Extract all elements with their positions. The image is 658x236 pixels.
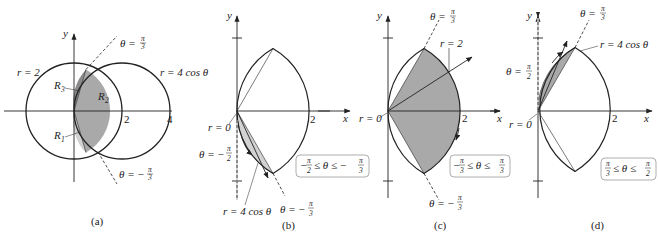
svg-text:3: 3 [605, 169, 610, 178]
svg-text:3: 3 [499, 166, 504, 175]
svg-text:2: 2 [105, 96, 109, 105]
y-axis-label: y [376, 9, 382, 21]
svg-text:π: π [606, 159, 610, 168]
svg-text:3: 3 [140, 42, 145, 51]
x-axis-label: x [643, 112, 649, 124]
caption-a: (a) [91, 215, 104, 228]
polar-area-figure: y r = 2 r = 4 cos θ θ = π 3 θ = − π 3 R … [0, 0, 658, 236]
svg-text:π: π [527, 62, 531, 71]
svg-text:π: π [451, 7, 455, 16]
svg-text:θ = −: θ = − [429, 197, 455, 209]
ray-pi-3 [424, 20, 439, 49]
tick-2: 2 [310, 113, 316, 125]
lens-outline [540, 48, 610, 172]
svg-text:≤ θ ≤: ≤ θ ≤ [467, 159, 490, 171]
svg-text:2: 2 [527, 72, 531, 81]
label-r0: r = 0 [509, 118, 532, 130]
x-axis-label: x [496, 112, 502, 124]
svg-text:3: 3 [308, 209, 313, 218]
svg-text:2: 2 [307, 166, 311, 175]
y-axis-label: y [226, 9, 232, 21]
label-theta-neg-pi-2: θ = − π 2 [199, 144, 232, 163]
svg-text:π: π [307, 156, 311, 165]
svg-text:θ =: θ = [580, 7, 596, 19]
svg-text:≤ θ ≤ −: ≤ θ ≤ − [314, 159, 347, 171]
svg-text:θ =: θ = [506, 65, 522, 77]
sweep-arrow [538, 41, 567, 111]
tick-2: 2 [612, 112, 618, 124]
panel-d: y x 2 θ = π3 θ = π2 r = 4 cos θ r = 0 π3… [490, 4, 656, 232]
svg-text:3: 3 [60, 85, 65, 94]
ray-neg-pi-3 [273, 173, 285, 196]
label-theta-neg-pi-3: θ = − π 3 [280, 199, 314, 218]
svg-text:θ =: θ = [430, 10, 446, 22]
label-r2: r = 2 [17, 66, 40, 78]
svg-text:π: π [359, 156, 363, 165]
svg-text:R: R [53, 129, 61, 141]
svg-text:π: π [227, 144, 231, 153]
svg-text:R: R [97, 90, 105, 102]
label-theta-pi-3: θ = π 3 [120, 34, 146, 51]
svg-text:θ = −: θ = − [119, 168, 145, 180]
svg-text:3: 3 [459, 166, 464, 175]
label-r0: r = 0 [359, 112, 382, 124]
svg-text:θ = −: θ = − [199, 148, 225, 160]
label-theta-pi-3: θ = π3 [580, 4, 606, 22]
svg-text:θ = −: θ = − [280, 203, 306, 215]
svg-text:π: π [460, 156, 464, 165]
svg-text:1: 1 [61, 135, 65, 144]
tick-4: 4 [167, 113, 173, 125]
x-axis-label-b: x [342, 112, 348, 124]
svg-text:π: π [309, 199, 313, 208]
svg-text:π: π [646, 159, 650, 168]
svg-text:2: 2 [227, 154, 231, 163]
caption-b: (b) [282, 219, 295, 232]
range-box-d: π3 ≤ θ ≤ π2 [601, 158, 656, 180]
label-r0: r = 0 [208, 121, 231, 133]
svg-text:3: 3 [457, 203, 462, 212]
svg-text:R: R [53, 79, 61, 91]
y-axis-label: y [526, 9, 532, 21]
label-theta-neg-pi-3: θ = − π3 [429, 193, 463, 212]
caption-c: (c) [434, 219, 447, 232]
range-box-b: − π2 ≤ θ ≤ − π3 [296, 155, 369, 177]
svg-text:π: π [500, 156, 504, 165]
ray-neg-pi-3 [424, 173, 439, 200]
svg-text:3: 3 [450, 16, 455, 25]
svg-text:3: 3 [358, 166, 363, 175]
panel-c: y x x 2 θ = π3 r = 2 r = 0 θ = − π3 − π3… [318, 7, 510, 232]
tick-2: 2 [124, 113, 130, 125]
label-theta-pi-2: θ = π2 [506, 62, 532, 81]
sweep-arrow [237, 111, 268, 178]
sliver-shading [237, 111, 273, 173]
svg-text:≤ θ ≤: ≤ θ ≤ [613, 162, 636, 174]
label-r2: r = 2 [440, 37, 463, 49]
svg-text:3: 3 [600, 13, 605, 22]
label-4cos: r = 4 cos θ [223, 205, 272, 217]
panel-a: y r = 2 r = 4 cos θ θ = π 3 θ = − π 3 R … [4, 27, 209, 228]
svg-text:π: π [601, 4, 605, 13]
svg-text:θ =: θ = [120, 37, 136, 49]
svg-text:2: 2 [646, 169, 650, 178]
caption-d: (d) [591, 219, 604, 232]
label-4cos: r = 4 cos θ [600, 38, 649, 50]
tick-2: 2 [462, 112, 468, 124]
ray-pi-3 [575, 20, 589, 48]
label-theta-neg-pi-3: θ = − π 3 [119, 165, 153, 182]
range-box-c: − π3 ≤ θ ≤ π3 [450, 155, 510, 177]
svg-text:3: 3 [147, 173, 152, 182]
label-4cos: r = 4 cos θ [160, 66, 209, 78]
label-theta-pi-3: θ = π3 [430, 7, 456, 25]
svg-text:π: π [458, 193, 462, 202]
y-axis-label: y [62, 27, 68, 39]
